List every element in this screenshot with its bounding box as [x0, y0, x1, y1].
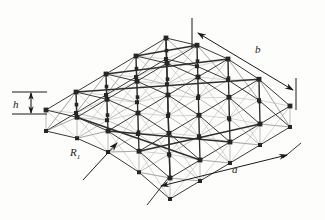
bottom-chord-member	[228, 80, 259, 100]
bottom-chord-node	[164, 57, 168, 61]
top-chord-node	[166, 77, 170, 81]
top-chord-node	[228, 118, 232, 122]
bottom-chord-member	[229, 100, 259, 118]
top-chord-node	[74, 90, 79, 95]
top-chord-node	[197, 94, 201, 98]
edge-diagonal	[259, 79, 290, 127]
web-diagonal	[199, 115, 229, 118]
top-chord-member	[229, 97, 260, 124]
top-chord-node	[227, 76, 231, 80]
bottom-chord-member	[139, 154, 169, 172]
top-chord-node	[105, 85, 109, 89]
top-chord-node	[75, 115, 80, 120]
bottom-chord-node	[74, 111, 78, 115]
top-chord-member	[139, 151, 170, 178]
bottom-chord-node	[137, 170, 141, 174]
top-chord-node	[164, 36, 169, 41]
top-chord-node	[165, 49, 169, 53]
top-chord-member	[198, 77, 229, 97]
bottom-chord-member	[198, 98, 229, 118]
page-bleed-through-text	[160, 206, 204, 213]
dim-a-extension-right	[283, 143, 301, 158]
top-chord-member	[108, 113, 138, 131]
edge-diagonal	[108, 151, 139, 152]
radius-symbol: R	[70, 146, 77, 158]
figure-root: h a b R1	[0, 0, 325, 220]
edge-diagonal	[260, 124, 290, 127]
bottom-chord-node	[198, 179, 202, 183]
bottom-chord-node	[104, 93, 108, 97]
top-chord-node	[257, 77, 262, 82]
top-chord-node	[137, 149, 142, 154]
bottom-chord-member	[229, 118, 260, 145]
edge-diagonal	[46, 117, 77, 131]
top-chord-node	[167, 112, 171, 116]
top-chord-member	[168, 95, 199, 115]
top-chord-member	[168, 77, 198, 95]
bottom-chord-node	[134, 75, 138, 79]
dimension-label-h: h	[13, 98, 19, 110]
web-diagonal	[229, 118, 260, 124]
dimension-label-a: a	[232, 163, 238, 175]
top-chord-member	[138, 113, 169, 133]
bottom-chord-node	[288, 125, 292, 129]
dimension-label-radius: R1	[70, 146, 80, 161]
top-chord-diagonal	[228, 59, 230, 142]
top-chord-node	[197, 113, 202, 118]
bottom-chord-member	[170, 181, 200, 199]
web-diagonal	[198, 97, 229, 98]
bottom-chord-member	[259, 100, 290, 127]
edge-diagonal	[200, 160, 230, 163]
top-chord-node	[196, 59, 200, 63]
bottom-chord-member	[199, 118, 229, 136]
dim-a-extension	[147, 177, 169, 205]
bottom-chord-node	[75, 136, 79, 140]
top-chord-member	[137, 63, 167, 81]
top-chord-node	[226, 57, 231, 62]
bottom-chord-member	[46, 131, 77, 138]
top-chord-member	[77, 99, 107, 117]
space-truss-diagram	[0, 0, 325, 220]
top-chord-node	[167, 131, 172, 136]
top-chord-node	[137, 130, 141, 134]
top-chord-member	[200, 142, 230, 160]
top-chord-node	[198, 158, 203, 163]
top-chord-member	[259, 79, 290, 106]
dimension-label-b: b	[255, 43, 261, 55]
top-chord-node	[165, 61, 170, 66]
web-diagonal	[76, 99, 107, 113]
top-chord-member	[260, 106, 290, 124]
top-chord-node	[196, 75, 201, 80]
bottom-chord-member	[200, 163, 230, 181]
top-chord-member	[170, 160, 200, 178]
bottom-chord-member	[108, 152, 139, 172]
top-chord-node	[136, 111, 141, 116]
top-chord-node	[288, 104, 293, 109]
web-diagonal	[139, 151, 169, 154]
bottom-chord-member	[77, 138, 108, 152]
top-chord-node	[105, 97, 110, 102]
bottom-chord-node	[195, 64, 199, 68]
top-chord-node	[134, 54, 139, 59]
top-chord-node	[258, 100, 262, 104]
bottom-chord-member	[168, 116, 199, 136]
bottom-chord-node	[165, 82, 169, 86]
bottom-chord-node	[135, 100, 139, 104]
bottom-chord-node	[168, 197, 172, 201]
top-chord-node	[258, 122, 263, 127]
top-chord-node	[228, 140, 233, 145]
dim-a-line	[161, 155, 287, 186]
top-chord-node	[106, 129, 111, 134]
top-chord-member	[138, 95, 168, 113]
top-chord-node	[136, 95, 140, 99]
top-chord-member	[46, 92, 76, 110]
top-chord-node	[166, 93, 171, 98]
top-chord-node	[135, 79, 140, 84]
edge-diagonal	[230, 142, 260, 145]
top-chord-diagonal	[106, 74, 108, 131]
bottom-chord-member	[107, 102, 137, 120]
top-chord-member	[197, 45, 228, 59]
top-chord-node	[227, 95, 232, 100]
web-diagonal	[169, 133, 199, 136]
edge-diagonal	[139, 172, 170, 178]
